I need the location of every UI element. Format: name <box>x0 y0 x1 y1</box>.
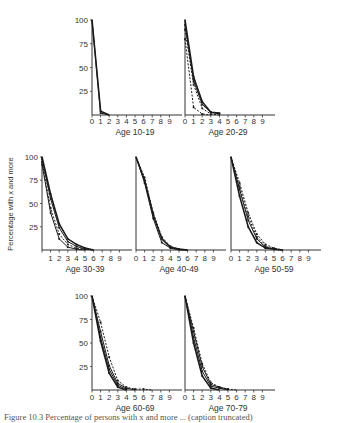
series-line <box>92 296 135 390</box>
x-tick-label: 8 <box>298 254 303 263</box>
x-tick-label: 3 <box>160 254 165 263</box>
x-tick-label: 5 <box>226 117 231 126</box>
x-tick-label: 5 <box>226 393 231 402</box>
series-line <box>42 164 85 250</box>
x-tick-label: 1 <box>191 393 196 402</box>
x-tick-label: 9 <box>167 117 172 126</box>
figure-canvas: 0123456789100755025Age 10-190123456789Ag… <box>0 0 338 423</box>
x-tick-label: 3 <box>116 117 121 126</box>
y-tick-label: 50 <box>79 64 88 73</box>
data-point <box>247 216 249 218</box>
data-point <box>193 342 195 344</box>
data-point <box>193 107 195 109</box>
panel-age-30-39: 123456789100755025Age 30-39 <box>25 153 132 274</box>
x-tick-label: 9 <box>260 117 265 126</box>
data-point <box>239 195 241 197</box>
x-tick-label: 3 <box>209 117 214 126</box>
data-point <box>265 245 267 247</box>
data-point <box>247 219 249 221</box>
x-tick-label: 2 <box>200 393 205 402</box>
data-point <box>201 107 203 109</box>
data-point <box>67 244 69 246</box>
x-tick-label: 6 <box>185 254 190 263</box>
series-line <box>185 296 228 389</box>
x-tick-label: 6 <box>234 393 239 402</box>
x-tick-label: 9 <box>260 393 265 402</box>
panel-age-label: Age 40-49 <box>159 264 198 274</box>
data-point <box>193 336 195 338</box>
data-point <box>76 244 78 246</box>
x-tick-label: 2 <box>107 117 112 126</box>
series-line <box>231 157 283 250</box>
x-tick-label: 4 <box>124 393 129 402</box>
x-tick-label: 4 <box>74 254 79 263</box>
y-tick-label: 50 <box>79 339 88 348</box>
x-tick-label: 9 <box>117 254 122 263</box>
series-line <box>136 157 188 250</box>
x-tick-label: 0 <box>229 254 234 263</box>
x-tick-label: 7 <box>243 117 248 126</box>
y-tick-label: 100 <box>25 153 39 162</box>
data-point <box>108 356 110 358</box>
data-point <box>193 84 195 86</box>
panel-age-70-79: 0123456789Age 70-79 <box>183 295 275 413</box>
y-tick-label: 75 <box>79 316 88 325</box>
data-point <box>108 365 110 367</box>
panel-age-label: Age 50-59 <box>254 264 293 274</box>
series-line <box>92 296 126 389</box>
data-point <box>117 386 119 388</box>
x-tick-label: 7 <box>150 393 155 402</box>
data-point <box>100 331 102 333</box>
data-point <box>170 245 172 247</box>
x-tick-label: 7 <box>100 254 105 263</box>
data-point <box>184 29 186 31</box>
x-tick-label: 7 <box>243 393 248 402</box>
series-line <box>92 20 109 115</box>
data-point <box>201 366 203 368</box>
x-tick-label: 6 <box>141 117 146 126</box>
x-tick-label: 0 <box>134 254 139 263</box>
x-tick-label: 4 <box>217 117 222 126</box>
x-tick-label: 0 <box>90 393 95 402</box>
x-tick-label: 1 <box>98 117 103 126</box>
data-point <box>210 111 212 113</box>
panel-age-10-19: 0123456789100755025Age 10-19 <box>75 16 182 137</box>
x-tick-label: 8 <box>159 117 164 126</box>
data-point <box>58 238 60 240</box>
x-tick-label: 0 <box>90 117 95 126</box>
data-point <box>219 386 221 388</box>
data-point <box>161 236 163 238</box>
data-point <box>178 248 180 250</box>
panel-age-40-49: 0123456789Age 40-49 <box>134 156 226 274</box>
data-point <box>210 387 212 389</box>
data-point <box>210 385 212 387</box>
x-tick-label: 9 <box>167 393 172 402</box>
x-tick-label: 5 <box>272 254 277 263</box>
data-point <box>100 321 102 323</box>
x-tick-label: 3 <box>255 254 260 263</box>
x-tick-label: 5 <box>177 254 182 263</box>
x-tick-label: 0 <box>183 393 188 402</box>
x-tick-label: 6 <box>91 254 96 263</box>
data-point <box>144 177 146 179</box>
data-point <box>108 368 110 370</box>
x-tick-label: 3 <box>66 254 71 263</box>
x-tick-label: 2 <box>151 254 156 263</box>
x-tick-label: 4 <box>124 117 129 126</box>
y-tick-label: 75 <box>29 176 38 185</box>
x-tick-label: 9 <box>306 254 311 263</box>
y-tick-label: 75 <box>79 40 88 49</box>
x-tick-label: 2 <box>200 117 205 126</box>
x-tick-label: 3 <box>116 393 121 402</box>
x-tick-label: 8 <box>203 254 208 263</box>
x-tick-label: 3 <box>209 393 214 402</box>
x-tick-label: 7 <box>150 117 155 126</box>
data-point <box>201 375 203 377</box>
x-tick-label: 8 <box>159 393 164 402</box>
panel-age-50-59: 0123456789Age 50-59 <box>229 156 321 274</box>
x-tick-label: 9 <box>211 254 216 263</box>
data-point <box>100 336 102 338</box>
data-point <box>256 236 258 238</box>
x-tick-label: 6 <box>280 254 285 263</box>
data-point <box>210 383 212 385</box>
